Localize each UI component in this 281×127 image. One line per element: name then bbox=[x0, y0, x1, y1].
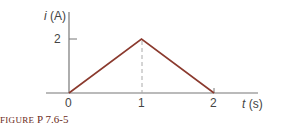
y-axis-variable: i bbox=[44, 9, 47, 23]
x-axis-label: t (s) bbox=[242, 98, 263, 110]
y-axis-label: i (A) bbox=[44, 10, 66, 22]
x-tick-label-2: 2 bbox=[210, 97, 217, 109]
y-axis-unit: (A) bbox=[50, 9, 66, 23]
x-axis-unit: (s) bbox=[249, 97, 263, 111]
x-tick-label-1: 1 bbox=[138, 97, 145, 109]
caption-number: P 7.6-5 bbox=[37, 113, 68, 125]
caption-prefix: FIGURE bbox=[0, 115, 34, 125]
figure-caption: FIGURE P 7.6-5 bbox=[0, 113, 68, 125]
x-axis-variable: t bbox=[242, 97, 245, 111]
y-tick-label-2: 2 bbox=[54, 33, 61, 45]
x-tick-label-0: 0 bbox=[65, 97, 72, 109]
